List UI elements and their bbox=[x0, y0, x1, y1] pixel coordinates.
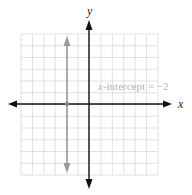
y-axis-up-arrow-icon bbox=[86, 20, 93, 30]
line-down-arrow-icon bbox=[64, 163, 71, 173]
y-axis-down-arrow-icon bbox=[86, 179, 93, 189]
x-intercept-annotation: x-intercept = −2 bbox=[97, 80, 168, 92]
x-axis-label: x bbox=[177, 97, 184, 111]
y-axis-label: y bbox=[86, 4, 93, 18]
line-up-arrow-icon bbox=[64, 36, 71, 46]
x-intercept-point bbox=[65, 102, 69, 106]
x-axis-right-arrow-icon bbox=[163, 101, 172, 108]
coordinate-plane: y x x-intercept = −2 bbox=[0, 0, 192, 195]
x-axis-left-arrow-icon bbox=[8, 101, 17, 108]
